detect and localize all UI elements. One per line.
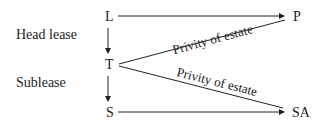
diagram-arrows	[0, 0, 322, 124]
